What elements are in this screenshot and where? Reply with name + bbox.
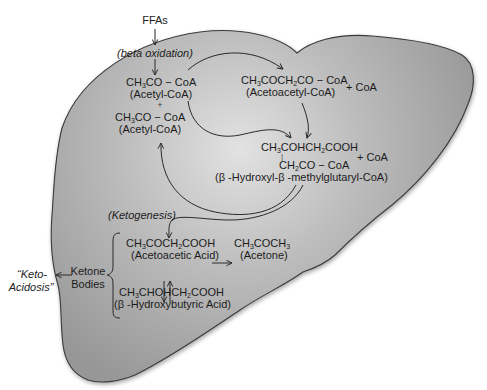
acetone-formula: CH3COCH3	[234, 237, 290, 249]
ketoacidosis-label-line2: Acidosis”	[6, 281, 56, 293]
ketoacidosis-label-line1: “Keto-	[10, 268, 54, 280]
acetoacetyl-coa-byproduct: + CoA	[346, 81, 377, 93]
hydroxybutyric-acid-name: (β -Hydroxybutyric Acid)	[114, 298, 231, 310]
formula-part: COCH	[254, 237, 286, 249]
hmg-coa-name: (β -Hydroxyl-β -methylglutaryl-CoA)	[215, 171, 388, 183]
formula-part: CH	[279, 159, 295, 171]
formula-part: COOH	[182, 237, 215, 249]
formula-part: CO − CoA	[146, 76, 196, 88]
acetone-name: (Acetone)	[240, 249, 288, 261]
formula-part: COOH	[191, 286, 224, 298]
formula-part: CHOHCH	[139, 286, 187, 298]
formula-part: CH	[234, 237, 250, 249]
formula-part: CO − CoA	[297, 74, 347, 86]
formula-part: CH	[115, 111, 131, 123]
hydroxybutyric-acid-formula: CH3CHOHCH2COOH	[119, 286, 224, 298]
formula-part: CO − CoA	[299, 159, 349, 171]
ketogenesis-label: (Ketogenesis)	[108, 209, 176, 221]
acetoacetic-acid-name: (Acetoacetic Acid)	[131, 249, 219, 261]
formula-part: COCH	[146, 237, 178, 249]
formula-part: COCH	[261, 74, 293, 86]
beta-oxidation-label: (beta oxidation)	[115, 47, 195, 59]
ketone-bodies-label-line2: Bodies	[70, 278, 106, 290]
acetoacetic-acid-formula: CH3COCH2COOH	[126, 237, 215, 249]
formula-part: CH	[261, 141, 277, 153]
acetyl-coa-2-formula: CH3CO − CoA	[115, 111, 185, 123]
ffas-label: FFAs	[135, 14, 175, 26]
hmg-coa-byproduct: + CoA	[357, 151, 388, 163]
formula-part: CH	[126, 237, 142, 249]
acetyl-coa-1-formula: CH3CO − CoA	[126, 76, 196, 88]
hmg-coa-formula-line2: CH2CO − CoA	[279, 159, 349, 171]
ketone-bodies-label-line1: Ketone	[70, 265, 106, 277]
acetyl-coa-2-name: (Acetyl-CoA)	[115, 123, 185, 135]
hmg-coa-formula-line1: CH3COHCH2COOH	[261, 141, 358, 153]
acetoacetyl-coa-name: (Acetoacetyl-CoA)	[246, 86, 335, 98]
plus-sign: +	[155, 99, 165, 111]
acetoacetyl-coa-formula: CH3COCH2CO − CoA	[241, 74, 348, 86]
formula-part: CO − CoA	[135, 111, 185, 123]
formula-part: CH	[126, 76, 142, 88]
formula-part: CH	[119, 286, 135, 298]
formula-part: COHCH	[281, 141, 321, 153]
liver-diagram-graphics	[0, 0, 487, 390]
formula-part: CH	[241, 74, 257, 86]
formula-part: COOH	[325, 141, 358, 153]
ketogenesis-diagram: FFAs (beta oxidation) CH3CO − CoA (Acety…	[0, 0, 487, 390]
